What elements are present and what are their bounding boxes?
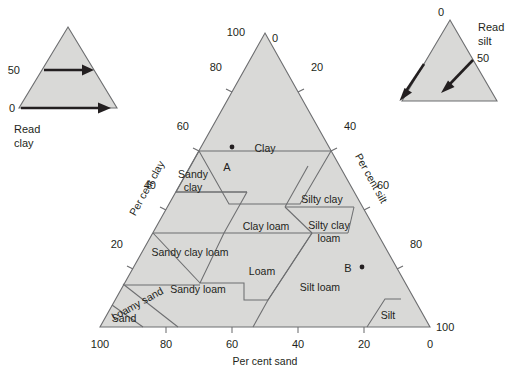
class-label-silt: Silt: [381, 309, 396, 321]
tick-clay-20: 20: [111, 238, 123, 250]
class-label-silt-loam: Silt loam: [300, 281, 341, 293]
tick-sand-80: 80: [160, 338, 172, 350]
class-label-sand: Sand: [112, 312, 137, 324]
tick-clay-80: 80: [210, 61, 222, 73]
tick-sand-20: 20: [358, 338, 370, 350]
tick-silt-40: 40: [344, 120, 356, 132]
tick-clay-100: 100: [227, 26, 245, 38]
inset-left-caption-line1: Read: [14, 123, 40, 135]
sample-point-a-label: A: [223, 161, 231, 173]
class-label-sandy-clay-line2: clay: [184, 181, 203, 193]
class-label-clay: Clay: [254, 142, 276, 154]
class-label-sandy-clay-line1: Sandy: [178, 168, 209, 180]
tick-sand-100: 100: [91, 338, 109, 350]
inset-right-caption-line1: Read: [478, 21, 504, 33]
axis-title-sand: Per cent sand: [233, 355, 298, 367]
class-label-silty-clay-loam-line2: loam: [318, 232, 341, 244]
inset-read-silt: 0 50 Read silt: [400, 6, 505, 101]
sample-point-b-dot: [360, 265, 365, 270]
class-label-loam: Loam: [249, 265, 276, 277]
sample-point-a-dot: [230, 145, 235, 150]
inset-right-tick-50: 50: [477, 52, 489, 64]
sample-point-b-label: B: [344, 262, 351, 274]
inset-read-clay: 50 0 Read clay: [8, 27, 117, 149]
class-label-sandy-clay-loam: Sandy clay loam: [151, 246, 228, 258]
class-label-clay-loam: Clay loam: [243, 220, 290, 232]
figure-root: 50 0 Read clay 0 50 Read silt: [0, 0, 516, 372]
class-label-silty-clay-loam-line1: Silty clay: [308, 219, 350, 231]
inset-right-caption-line2: silt: [478, 35, 491, 47]
inset-left-tick-50: 50: [8, 64, 20, 76]
class-label-silty-clay: Silty clay: [301, 193, 343, 205]
tick-silt-80: 80: [410, 238, 422, 250]
class-label-sandy-loam: Sandy loam: [170, 283, 226, 295]
tick-silt-0: 0: [272, 32, 278, 44]
tick-sand-40: 40: [292, 338, 304, 350]
tick-sand-60: 60: [226, 338, 238, 350]
tick-silt-20: 20: [311, 61, 323, 73]
tick-sand-0: 0: [427, 338, 433, 350]
axis-title-clay: Per cent clay: [127, 158, 167, 218]
inset-left-caption-line2: clay: [14, 137, 34, 149]
tick-silt-100: 100: [436, 321, 454, 333]
inset-right-tick-0: 0: [438, 6, 444, 18]
main-triangle-group: 100 0 80 60 40 20 20 40 60 80 100 100 80…: [91, 26, 455, 367]
inset-left-tick-0: 0: [9, 102, 15, 114]
soil-texture-triangle-svg: 50 0 Read clay 0 50 Read silt: [0, 0, 516, 372]
tick-clay-60: 60: [177, 120, 189, 132]
inset-left-triangle: [19, 27, 117, 108]
